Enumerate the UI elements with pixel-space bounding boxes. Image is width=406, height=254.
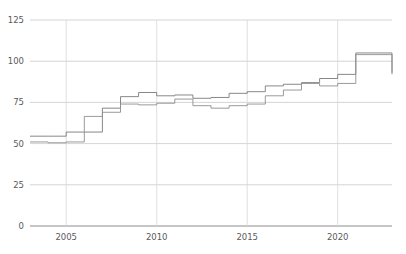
y-tick-label-25: 25 <box>13 180 24 190</box>
x-tick-label-2015: 2015 <box>236 232 258 242</box>
line-chart: 0255075100125 2005201020152020 <box>0 0 406 254</box>
y-tick-label-125: 125 <box>8 15 24 25</box>
x-tick-label-2005: 2005 <box>55 232 77 242</box>
x-tick-label-2020: 2020 <box>327 232 349 242</box>
chart-container: 0255075100125 2005201020152020 <box>0 0 406 254</box>
y-tick-label-75: 75 <box>13 97 24 107</box>
y-tick-label-50: 50 <box>13 139 24 149</box>
y-axis-tick-labels-group: 0255075100125 <box>8 15 24 231</box>
y-tick-label-0: 0 <box>19 221 24 231</box>
y-tick-label-100: 100 <box>8 56 24 66</box>
x-tick-label-2010: 2010 <box>146 232 168 242</box>
x-axis-tick-labels-group: 2005201020152020 <box>55 232 348 242</box>
vertical-gridlines-group <box>66 20 338 226</box>
